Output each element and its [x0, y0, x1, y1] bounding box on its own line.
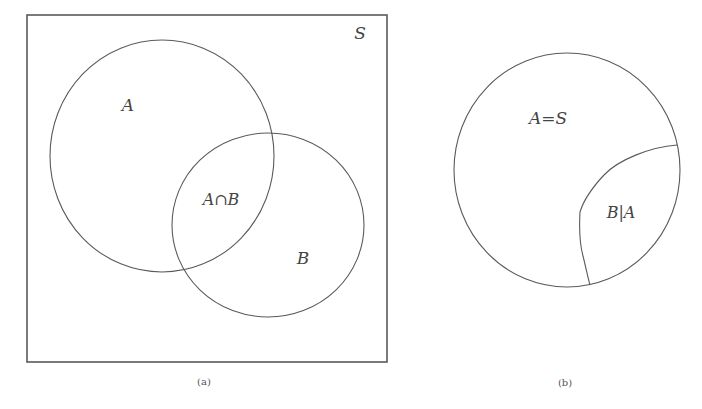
set-a-label: A [122, 97, 134, 114]
panel-a [27, 15, 387, 362]
caption-b: (b) [558, 378, 572, 388]
universe-label-a-equals-s: A=S [529, 110, 567, 127]
venn-diagram-canvas [0, 0, 702, 409]
intersection-label: A∩B [203, 192, 240, 208]
panel-b [454, 53, 680, 287]
set-b-label: B [297, 250, 310, 267]
universe-label-s: S [354, 25, 366, 42]
set-a-equals-s-circle [454, 53, 680, 287]
sample-space-rect [27, 15, 387, 362]
set-b-circle [172, 133, 364, 317]
set-a-circle [50, 40, 274, 272]
conditional-label-b-given-a: B|A [607, 205, 636, 221]
caption-a: (a) [197, 377, 211, 387]
